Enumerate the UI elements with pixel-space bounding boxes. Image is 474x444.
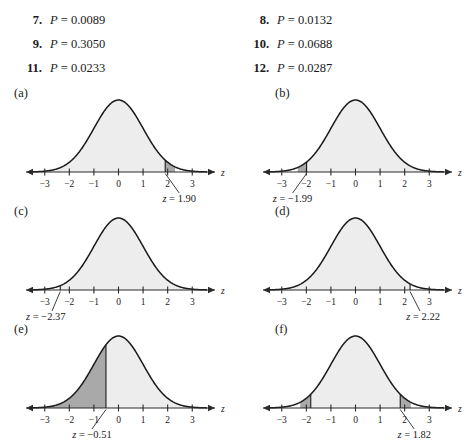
answer-item-7: 7.P = 0.0089 — [22, 8, 105, 32]
x-tick-label: −1 — [326, 415, 336, 425]
x-axis-arrow-right — [208, 287, 215, 293]
answer-number: 11. — [22, 56, 42, 80]
panel-label-d: (d) — [275, 204, 290, 219]
answer-item-11: 11.P = 0.0233 — [22, 56, 105, 80]
x-axis-arrow-right — [445, 287, 452, 293]
x-tick-label: −3 — [40, 179, 50, 189]
panel-label-a: (a) — [14, 86, 28, 101]
shaded-region-light — [106, 336, 207, 408]
x-axis-label: z — [457, 168, 462, 178]
x-tick-label: −1 — [326, 297, 336, 307]
x-tick-label: 1 — [141, 179, 146, 189]
x-tick-label: 0 — [116, 179, 121, 189]
x-axis-arrow-right — [208, 169, 215, 175]
answer-symbol: P — [277, 13, 285, 27]
chart-cell-c: (c) −3−2−10123zz = −2.37 — [0, 202, 237, 320]
x-tick-label: 0 — [353, 179, 358, 189]
answer-number: 12. — [249, 56, 269, 80]
answer-value: 0.0233 — [71, 61, 105, 75]
x-axis-label: z — [220, 286, 225, 296]
x-tick-label: −2 — [301, 297, 311, 307]
answer-number: 9. — [22, 32, 42, 56]
answer-value: 0.0089 — [71, 13, 105, 27]
x-tick-label: 3 — [427, 179, 432, 189]
chart-c: −3−2−10123zz = −2.37 — [0, 202, 237, 320]
chart-row: (c) −3−2−10123zz = −2.37 (d) −3−2−10123z… — [0, 202, 474, 320]
x-tick-label: −1 — [89, 179, 99, 189]
x-axis-label: z — [220, 404, 225, 414]
x-axis-arrow-left — [263, 169, 270, 175]
x-axis-arrow-left — [263, 405, 270, 411]
answer-body: P = 0.0132 — [277, 8, 332, 32]
worksheet-page: 7.P = 0.0089 8.P = 0.0132 9.P = 0.3050 1… — [0, 0, 474, 444]
normal-curve-plot: −3−2−10123zz = 2.22 — [237, 202, 474, 320]
answer-item-9: 9.P = 0.3050 — [22, 32, 105, 56]
critical-value-annotation: z = −0.51 — [71, 429, 112, 438]
chart-f: −3−2−10123zz = 1.82 — [237, 320, 474, 438]
panel-label-c: (c) — [14, 204, 28, 219]
panel-label-e: (e) — [14, 322, 28, 337]
x-axis-arrow-right — [208, 405, 215, 411]
answer-body: P = 0.0688 — [277, 32, 332, 56]
answer-item-10: 10.P = 0.0688 — [249, 32, 332, 56]
x-tick-label: 2 — [402, 297, 407, 307]
chart-cell-a: (a) −3−2−10123zz = 1.90 — [0, 84, 237, 202]
answer-number: 8. — [249, 8, 269, 32]
x-tick-label: −1 — [89, 297, 99, 307]
answer-number: 10. — [249, 32, 269, 56]
panel-label-b: (b) — [275, 86, 290, 101]
x-tick-label: −3 — [40, 297, 50, 307]
x-tick-label: 3 — [190, 297, 195, 307]
chart-row: (e) −3−2−10123zz = −0.51 (f) −3−2−10123z… — [0, 320, 474, 438]
chart-b: −3−2−10123zz = −1.99 — [237, 84, 474, 202]
x-tick-label: −2 — [64, 179, 74, 189]
answer-value: 0.3050 — [71, 37, 105, 51]
chart-cell-d: (d) −3−2−10123zz = 2.22 — [237, 202, 474, 320]
answer-body: P = 0.0287 — [277, 56, 332, 80]
answer-equals: = — [61, 61, 68, 75]
x-tick-label: 1 — [378, 297, 383, 307]
x-tick-label: 1 — [141, 297, 146, 307]
chart-cell-f: (f) −3−2−10123zz = 1.82 — [237, 320, 474, 438]
shaded-region-light — [267, 218, 410, 290]
x-axis-arrow-right — [445, 405, 452, 411]
x-tick-label: −2 — [301, 415, 311, 425]
normal-curve-plot: −3−2−10123zz = −1.99 — [237, 84, 474, 202]
x-tick-label: −2 — [64, 297, 74, 307]
x-tick-label: 3 — [190, 179, 195, 189]
answer-item-12: 12.P = 0.0287 — [249, 56, 332, 80]
x-tick-label: 0 — [353, 297, 358, 307]
x-axis-arrow-left — [26, 405, 33, 411]
x-axis-label: z — [457, 286, 462, 296]
x-tick-label: 2 — [402, 179, 407, 189]
annotation-leader-line — [52, 292, 60, 312]
critical-value-annotation: z = 1.90 — [161, 193, 196, 202]
annotation-leader-line — [410, 292, 420, 312]
x-tick-label: 0 — [116, 297, 121, 307]
answer-symbol: P — [50, 61, 58, 75]
x-tick-label: −1 — [326, 179, 336, 189]
x-tick-label: 0 — [116, 415, 121, 425]
x-tick-label: 2 — [165, 415, 170, 425]
answer-row: 11.P = 0.0233 12.P = 0.0287 — [0, 56, 474, 80]
answer-symbol: P — [277, 37, 285, 51]
x-tick-label: −2 — [64, 415, 74, 425]
answer-equals: = — [61, 13, 68, 27]
x-tick-label: −3 — [277, 415, 287, 425]
chart-e: −3−2−10123zz = −0.51 — [0, 320, 237, 438]
answer-value: 0.0132 — [298, 13, 332, 27]
x-axis-label: z — [457, 404, 462, 414]
x-axis-arrow-left — [26, 287, 33, 293]
normal-curve-plot: −3−2−10123zz = −0.51 — [0, 320, 237, 438]
answer-equals: = — [288, 61, 295, 75]
critical-value-annotation: z = −1.99 — [272, 193, 313, 202]
x-tick-label: 1 — [378, 179, 383, 189]
shaded-region-light — [30, 100, 165, 172]
x-tick-label: 2 — [165, 179, 170, 189]
answer-item-8: 8.P = 0.0132 — [249, 8, 332, 32]
answer-body: P = 0.3050 — [50, 32, 105, 56]
x-tick-label: 2 — [165, 297, 170, 307]
answer-equals: = — [288, 13, 295, 27]
answer-value: 0.0287 — [298, 61, 332, 75]
critical-value-annotation: z = −2.37 — [25, 311, 66, 320]
